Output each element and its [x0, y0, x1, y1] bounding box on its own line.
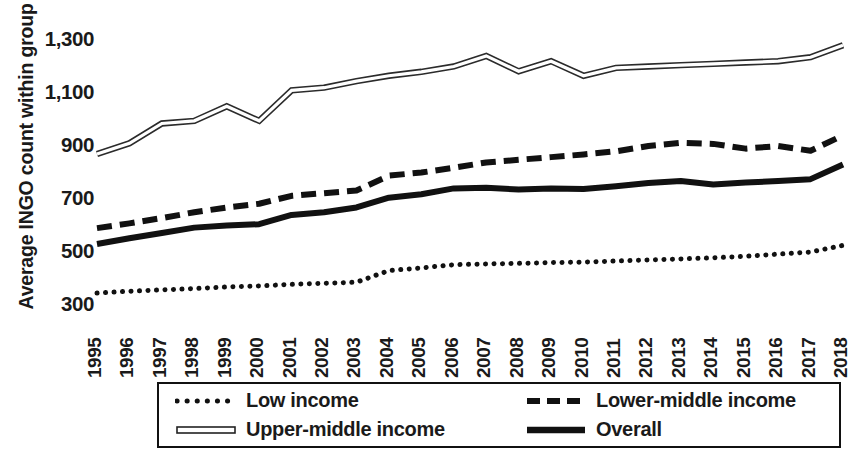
chart-legend: Low income Lower-middle income Upper-mid…	[157, 382, 841, 448]
x-axis-tick: 2016	[766, 338, 785, 378]
chart-figure: Average INGO count within group 30050070…	[0, 0, 851, 452]
x-axis-tick: 2002	[312, 338, 331, 378]
x-axis-tick: 2011	[604, 339, 623, 378]
series-line-overall	[97, 165, 843, 245]
y-axis-tick: 1,100	[45, 82, 94, 103]
series-line-upper-middle-income	[97, 45, 843, 154]
legend-label-upper-middle-income: Upper-middle income	[246, 418, 445, 441]
x-axis-tick: 1997	[150, 338, 169, 378]
legend-label-low-income: Low income	[246, 389, 359, 412]
y-axis-tick: 900	[61, 135, 94, 156]
x-axis-tick: 1996	[117, 338, 136, 378]
legend-item-lower-middle-income[interactable]: Lower-middle income	[525, 389, 839, 412]
legend-swatch-double-line	[175, 423, 237, 437]
y-axis-tick: 1,300	[45, 29, 94, 50]
x-axis-tick: 2001	[280, 338, 299, 378]
series-line-inner	[97, 45, 843, 154]
x-axis-tick: 2005	[409, 338, 428, 378]
x-axis-tick: 2006	[442, 338, 461, 378]
series-line-lower-middle-income	[97, 135, 843, 228]
x-axis-tick: 2018	[831, 338, 850, 378]
x-axis-tick: 2000	[247, 338, 266, 378]
x-axis-tick: 2010	[572, 338, 591, 378]
x-axis-tick-labels: 1995199619971998199920002001200220032004…	[0, 312, 851, 378]
y-axis-tick-labels: 3005007009001,1001,300	[22, 0, 94, 330]
x-axis-tick: 2014	[701, 338, 720, 378]
x-axis-tick: 1995	[85, 338, 104, 378]
x-axis-tick: 1999	[215, 338, 234, 378]
x-axis-tick: 2013	[669, 338, 688, 378]
x-axis-tick: 1998	[182, 338, 201, 378]
y-axis-tick: 700	[61, 188, 94, 209]
legend-swatch-dotted	[175, 394, 237, 408]
legend-item-upper-middle-income[interactable]: Upper-middle income	[175, 418, 525, 441]
x-axis-tick: 2012	[636, 338, 655, 378]
x-axis-tick: 2017	[799, 338, 818, 378]
x-axis-tick: 2009	[539, 338, 558, 378]
legend-swatch-solid	[525, 423, 587, 437]
legend-label-overall: Overall	[596, 418, 662, 441]
legend-label-lower-middle-income: Lower-middle income	[596, 389, 796, 412]
x-axis-tick: 2003	[344, 338, 363, 378]
legend-swatch-dashed	[525, 394, 587, 408]
x-axis-tick: 2004	[377, 338, 396, 378]
x-axis-tick: 2007	[474, 338, 493, 378]
x-axis-tick: 2008	[507, 338, 526, 378]
y-axis-tick: 500	[61, 241, 94, 262]
legend-item-low-income[interactable]: Low income	[175, 389, 525, 412]
x-axis-tick: 2015	[734, 338, 753, 378]
series-line-low-income	[97, 245, 843, 293]
legend-item-overall[interactable]: Overall	[525, 418, 839, 441]
